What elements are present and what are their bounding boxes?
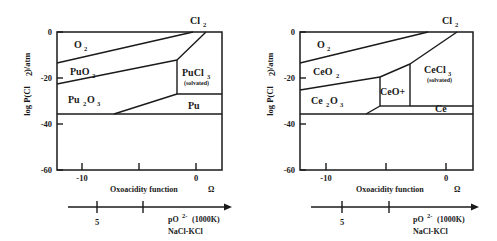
y-tick-label-minus20: -20: [284, 73, 295, 83]
plutonium-diagram-panel: log P(Cl 2 )/atm 0 -20 -40 -60: [0, 0, 248, 241]
region-label-PuCl3-solvated: (solvated): [184, 80, 209, 87]
region-label-PuCl3-text: PuCl: [182, 67, 204, 78]
boundary-CeO2-Ce2O3: [300, 77, 380, 90]
region-label-CeO2-subscript: 2: [336, 72, 339, 79]
boundary-Ce2O3-Ce-diagonal: [366, 106, 380, 114]
region-label-O2: O 2: [317, 39, 330, 52]
region-label-Pu2O3-O: O: [87, 94, 95, 105]
y-axis-label: log P(Cl: [22, 86, 32, 116]
secondary-axis-caption-line1: pO: [413, 215, 424, 224]
region-label-Cl2: Cl 2: [442, 15, 458, 28]
region-label-PuO2-text: PuO: [70, 66, 90, 77]
x-tick-label-0: 0: [444, 173, 448, 183]
boundary-CeO2-CeOplus-diagonal: [380, 64, 410, 77]
y-tick-label-minus40: -40: [284, 119, 295, 129]
secondary-axis-caption-temp: (1000K): [437, 215, 465, 224]
region-label-Cl2-text: Cl: [442, 15, 452, 26]
boundary-Pu2O3-Pu: [114, 94, 177, 114]
region-label-O2-text: O: [74, 39, 82, 50]
y-tick-label-minus40: -40: [41, 119, 52, 129]
region-label-O2-text: O: [317, 39, 325, 50]
y-tick-label-minus60: -60: [284, 165, 295, 175]
region-label-CeO2: CeO 2: [313, 66, 339, 79]
secondary-axis-caption: pO 2- (1000K) NaCl-KCl: [168, 212, 220, 236]
region-label-Pu2O3-text: Pu: [68, 94, 80, 105]
y-tick-label-minus60: -60: [41, 165, 52, 175]
region-label-PuO2-subscript: 2: [92, 72, 95, 79]
region-label-Cl2-subscript: 2: [455, 21, 458, 28]
secondary-axis-arrowhead: [471, 204, 479, 211]
boundary-PuCl3-upper-diagonal: [177, 32, 206, 60]
x-tick-label-0: 0: [194, 173, 198, 183]
region-label-CeCl3-solvated: (solvated): [427, 77, 452, 84]
region-label-CeCl3-subscript: 3: [448, 70, 452, 77]
x-axis-label: Oxoacidity function: [110, 185, 178, 194]
region-label-Cl2-subscript: 2: [203, 21, 206, 28]
y-axis-label-suffix: )/atm: [22, 53, 32, 72]
y-axis-label-suffix: )/atm: [265, 53, 275, 72]
x-axis-symbol: Ω: [208, 185, 215, 194]
region-label-CeCl3: CeCl 3 (solvated): [424, 64, 452, 84]
region-label-CeOplus: CeO+: [380, 86, 405, 97]
secondary-axis-caption-line2: NaCl-KCl: [413, 227, 448, 236]
region-label-Ce2O3-sub2: 3: [340, 101, 344, 108]
secondary-axis-arrowhead: [224, 204, 232, 211]
secondary-axis-caption: pO 2- (1000K) NaCl-KCl: [413, 212, 465, 236]
region-label-Ce2O3-text: Ce: [311, 95, 323, 106]
secondary-tick-label-5: 5: [340, 217, 344, 227]
y-tick-label-0: 0: [291, 27, 295, 37]
region-label-PuCl3-subscript: 3: [207, 73, 211, 80]
x-axis-symbol: Ω: [454, 185, 461, 194]
x-axis-label: Oxoacidity function: [356, 185, 424, 194]
region-label-O2: O 2: [74, 39, 87, 52]
secondary-axis-caption-temp: (1000K): [192, 215, 220, 224]
region-label-O2-subscript: 2: [327, 45, 330, 52]
region-label-Pu2O3: Pu 2 O 3: [68, 94, 101, 107]
region-label-CeCl3-text: CeCl: [424, 64, 446, 75]
region-label-Pu: Pu: [188, 100, 200, 111]
phase-diagram-figure: log P(Cl 2 )/atm 0 -20 -40 -60: [0, 0, 497, 241]
boundary-CeCl3-upper-diagonal: [410, 32, 457, 64]
x-tick-label-minus10: -10: [320, 173, 331, 183]
secondary-axis-caption-line1: pO: [168, 215, 179, 224]
y-axis-label: log P(Cl: [265, 86, 275, 116]
secondary-axis-caption-charge: 2-: [427, 212, 432, 219]
x-tick-label-minus10: -10: [76, 173, 87, 183]
secondary-axis-caption-line2: NaCl-KCl: [168, 227, 203, 236]
cerium-diagram-panel: log P(Cl 2 )/atm 0 -20 -40 -60: [249, 0, 497, 241]
region-label-Cl2-text: Cl: [190, 15, 200, 26]
region-label-CeO2-text: CeO: [313, 66, 333, 77]
region-label-PuCl3: PuCl 3 (solvated): [182, 67, 211, 87]
y-tick-label-0: 0: [48, 27, 52, 37]
y-tick-label-minus20: -20: [41, 73, 52, 83]
cerium-diagram-svg: log P(Cl 2 )/atm 0 -20 -40 -60: [249, 0, 497, 241]
region-label-Ce: Ce: [435, 103, 447, 114]
region-label-Cl2: Cl 2: [190, 15, 206, 28]
region-label-Ce2O3: Ce 2 O 3: [311, 95, 344, 108]
region-label-Ce2O3-sub1: 2: [326, 101, 329, 108]
region-label-Ce2O3-O: O: [330, 95, 338, 106]
secondary-axis-caption-charge: 2-: [182, 212, 187, 219]
region-label-Pu2O3-sub1: 2: [83, 100, 86, 107]
region-label-O2-subscript: 2: [84, 45, 87, 52]
plutonium-diagram-svg: log P(Cl 2 )/atm 0 -20 -40 -60: [0, 0, 248, 241]
secondary-tick-label-5: 5: [95, 217, 99, 227]
region-label-Pu2O3-sub2: 3: [97, 100, 101, 107]
region-label-PuO2: PuO 2: [70, 66, 95, 79]
